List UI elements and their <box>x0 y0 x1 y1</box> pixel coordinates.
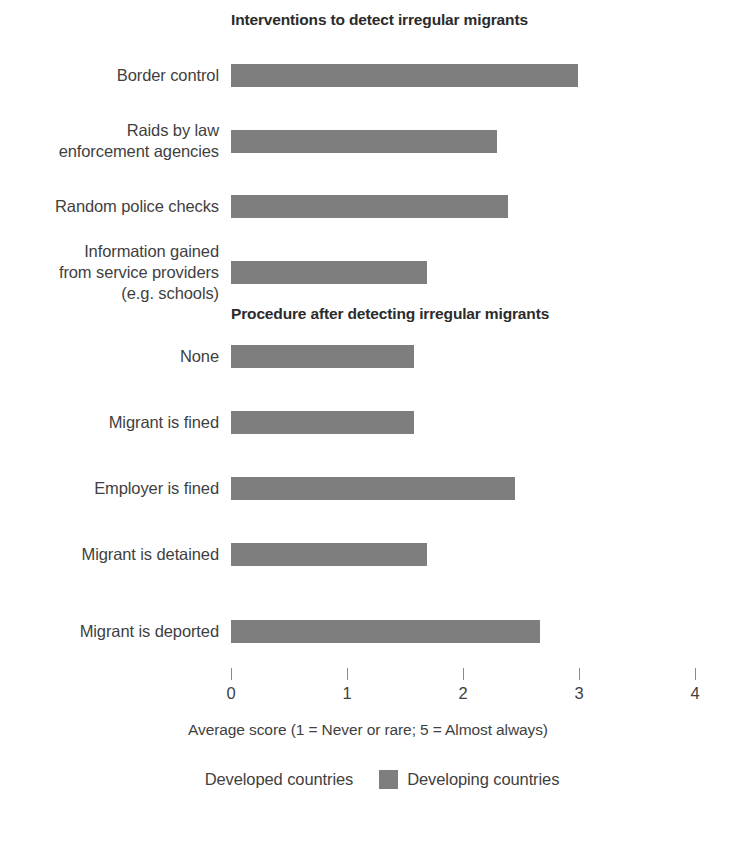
bar-developing[interactable] <box>231 130 497 153</box>
section-heading-interventions: Interventions to detect irregular migran… <box>231 11 528 29</box>
bar-track <box>231 345 695 369</box>
bar-track <box>231 64 695 88</box>
bar-row-label: Employer is fined <box>0 478 219 499</box>
x-axis: 01234 <box>0 668 736 714</box>
legend-swatch-developing-icon <box>379 770 398 789</box>
bar-chart-figure: Interventions to detect irregular migran… <box>0 0 736 845</box>
bar-developing[interactable] <box>231 411 414 434</box>
bar-track <box>231 411 695 435</box>
bar-row-label: Raids by law enforcement agencies <box>0 120 219 162</box>
bar-track <box>231 195 695 219</box>
bar-track <box>231 130 695 154</box>
bar-row-label: Random police checks <box>0 196 219 217</box>
section-heading-procedure: Procedure after detecting irregular migr… <box>231 305 549 323</box>
x-axis-title: Average score (1 = Never or rare; 5 = Al… <box>0 721 736 739</box>
x-axis-tick <box>695 668 696 680</box>
legend-swatch-developed-icon <box>177 770 196 789</box>
x-axis-tick <box>231 668 232 680</box>
bar-developing[interactable] <box>231 195 508 218</box>
legend-label-developing: Developing countries <box>407 770 559 789</box>
bar-track <box>231 620 695 644</box>
bar-row-label: Migrant is detained <box>0 544 219 565</box>
bar-developing[interactable] <box>231 64 578 87</box>
bar-row-label: Information gained from service provider… <box>0 241 219 304</box>
bar-track <box>231 543 695 567</box>
bar-row: Raids by law enforcement agencies <box>0 130 736 154</box>
bar-developing[interactable] <box>231 345 414 368</box>
legend-label-developed: Developed countries <box>205 770 354 789</box>
x-axis-tick-label: 3 <box>559 684 599 703</box>
bar-row: Employer is fined <box>0 477 736 501</box>
bar-developing[interactable] <box>231 261 427 284</box>
x-axis-tick-label: 1 <box>327 684 367 703</box>
bar-row: Random police checks <box>0 195 736 219</box>
bar-developing[interactable] <box>231 477 515 500</box>
x-axis-tick <box>347 668 348 680</box>
bar-row-label: Migrant is deported <box>0 621 219 642</box>
x-axis-tick <box>463 668 464 680</box>
bar-track <box>231 261 695 285</box>
bar-row-label: Border control <box>0 65 219 86</box>
bar-row: None <box>0 345 736 369</box>
legend-item-developed[interactable]: Developed countries <box>177 770 354 789</box>
legend-item-developing[interactable]: Developing countries <box>379 770 559 789</box>
x-axis-tick <box>579 668 580 680</box>
bar-row: Migrant is fined <box>0 411 736 435</box>
chart-legend: Developed countries Developing countries <box>0 770 736 789</box>
bar-row: Migrant is deported <box>0 620 736 644</box>
x-axis-tick-label: 4 <box>675 684 715 703</box>
bar-developing[interactable] <box>231 543 427 566</box>
bar-row-label: Migrant is fined <box>0 412 219 433</box>
bar-developing[interactable] <box>231 620 540 643</box>
x-axis-tick-label: 0 <box>211 684 251 703</box>
bar-row: Information gained from service provider… <box>0 261 736 285</box>
bar-track <box>231 477 695 501</box>
bar-row-label: None <box>0 346 219 367</box>
bar-row: Migrant is detained <box>0 543 736 567</box>
x-axis-tick-label: 2 <box>443 684 483 703</box>
bar-row: Border control <box>0 64 736 88</box>
